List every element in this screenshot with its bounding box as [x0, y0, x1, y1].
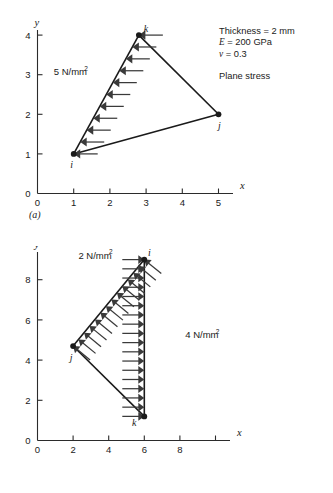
edge-load-ji [73, 260, 161, 360]
load-magnitude-label: 4 N/mm [185, 329, 218, 340]
modulus-value-a: = 200 GPa [225, 37, 272, 47]
figure-b-plane-strain: xy02468024682 N/mm24 N/mm2ijk Thickness … [0, 246, 333, 493]
load-arrow [133, 273, 150, 287]
x-tick-label: 5 [216, 197, 221, 208]
edge-load-ik [74, 31, 163, 159]
node-label-j: j [216, 120, 221, 131]
load-arrow [106, 90, 130, 99]
arrow-head [138, 311, 144, 320]
load-arrow [73, 346, 90, 360]
arrow-shaft [104, 316, 117, 327]
arrow-shaft [115, 303, 128, 314]
load-arrow [113, 78, 137, 87]
load-arrow [122, 384, 144, 393]
y-tick-label: 4 [25, 355, 30, 366]
load-arrow [122, 320, 144, 329]
load-unit-exponent: 2 [216, 328, 220, 335]
y-tick-label: 2 [25, 109, 30, 120]
x-tick-label: 0 [35, 197, 40, 208]
node-dot-k [136, 32, 142, 38]
arrow-head [100, 313, 107, 320]
arrow-shaft [94, 329, 107, 340]
arrow-shaft [148, 263, 161, 274]
x-axis-label: x [236, 427, 242, 438]
load-arrow [119, 66, 143, 75]
arrow-head [106, 306, 113, 313]
load-arrow [122, 403, 144, 412]
load-arrow [126, 54, 150, 63]
x-tick-label: 6 [142, 444, 147, 455]
load-arrow [122, 357, 144, 366]
element-edge [73, 346, 144, 416]
node-dot-i [71, 151, 77, 157]
x-tick-label: 4 [106, 444, 111, 455]
arrow-head [111, 299, 118, 306]
element-edge [74, 114, 219, 154]
modulus-line-a: E = 200 GPa [219, 37, 295, 48]
load-magnitude-label: 2 N/mm [78, 250, 111, 261]
y-axis-label: y [34, 17, 40, 28]
y-tick-label: 0 [25, 435, 30, 446]
diagram-b-svg: xy02468024682 N/mm24 N/mm2ijk [0, 246, 333, 493]
x-tick-label: 1 [71, 197, 76, 208]
node-dot-j [216, 111, 222, 117]
load-arrow [90, 326, 107, 340]
node-label-i: i [70, 159, 73, 170]
x-tick-label: 2 [70, 444, 75, 455]
node-label-j: j [68, 352, 73, 363]
load-arrow [122, 394, 144, 403]
thickness-line-a: Thickness = 2 mm [219, 26, 295, 37]
load-arrow [122, 301, 144, 310]
node-dot-k [141, 413, 147, 419]
arrow-shaft [110, 309, 123, 320]
y-tick-label: 3 [25, 69, 30, 80]
load-arrow [132, 42, 156, 51]
arrow-head [138, 357, 144, 366]
x-tick-label: 2 [107, 197, 112, 208]
arrow-head [138, 375, 144, 384]
poisson-line-a: ν = 0.3 [219, 49, 295, 60]
node-label-i: i [148, 247, 151, 258]
arrow-head [138, 292, 144, 301]
material-properties-a: Thickness = 2 mm E = 200 GPa ν = 0.3 Pla… [219, 26, 295, 83]
arrow-shaft [88, 336, 101, 347]
load-arrow [106, 306, 123, 320]
y-tick-label: 4 [25, 30, 30, 41]
load-arrow [122, 338, 144, 347]
poisson-value-a: = 0.3 [223, 49, 247, 59]
load-arrow [122, 348, 144, 357]
load-arrow [79, 339, 96, 353]
arrow-head [138, 366, 144, 375]
node-label-k: k [132, 417, 137, 428]
node-label-k: k [144, 23, 149, 34]
load-magnitude-label: 5 N/mm [54, 66, 87, 77]
arrow-head [95, 319, 102, 326]
load-arrow [80, 137, 104, 146]
x-tick-label: 8 [177, 444, 182, 455]
y-tick-label: 1 [25, 149, 30, 160]
arrow-head [138, 338, 144, 347]
load-arrow [100, 313, 117, 327]
load-arrow [87, 126, 111, 135]
arrow-head [128, 280, 135, 287]
y-tick-label: 0 [25, 188, 30, 199]
y-tick-label: 8 [25, 274, 30, 285]
load-arrow [144, 260, 161, 274]
load-arrow [84, 333, 101, 347]
arrow-head [138, 329, 144, 338]
x-tick-label: 4 [180, 197, 185, 208]
x-tick-label: 0 [35, 444, 40, 455]
load-arrow [122, 366, 144, 375]
arrow-head [84, 333, 91, 340]
arrow-head [138, 301, 144, 310]
arrow-head [138, 384, 144, 393]
arrow-shaft [77, 349, 90, 360]
figure-caption-a: (a) [29, 209, 41, 220]
load-arrow [122, 375, 144, 384]
y-axis-label: y [34, 246, 40, 250]
load-arrow [117, 293, 134, 307]
arrow-shaft [99, 323, 112, 334]
y-tick-label: 2 [25, 395, 30, 406]
load-unit-exponent: 2 [109, 248, 113, 255]
y-tick-label: 6 [25, 315, 30, 326]
